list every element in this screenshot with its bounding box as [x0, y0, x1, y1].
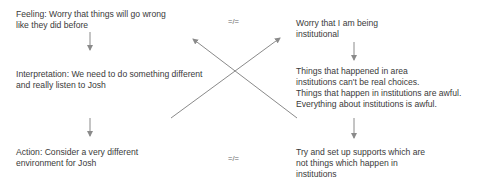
cross-arrow-to-right	[171, 38, 280, 118]
cross-arrow-to-left	[193, 39, 297, 118]
arrows-layer	[0, 0, 478, 183]
